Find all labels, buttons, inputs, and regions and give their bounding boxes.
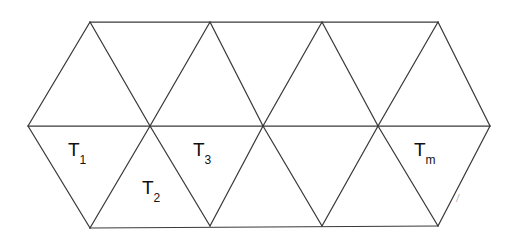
mesh-edge-up-left-1 xyxy=(150,22,210,126)
mesh-edge-up-right-1 xyxy=(90,22,150,126)
mesh-edge-bottom-horizontal xyxy=(90,226,438,228)
triangle-label-tm: Tm xyxy=(414,140,436,163)
triangulation-diagram: T1 T2 T3 Tm / xyxy=(0,0,513,236)
label-base: T xyxy=(68,139,80,160)
mesh-edge-down-right-2 xyxy=(210,126,263,226)
stray-pen-mark: / xyxy=(456,190,460,206)
label-subscript: 1 xyxy=(80,153,87,167)
label-base: T xyxy=(142,177,154,198)
label-subscript: 2 xyxy=(154,191,161,205)
mesh-edge-up-right-3 xyxy=(322,22,378,126)
label-subscript: 3 xyxy=(205,153,212,167)
mesh-edge-up-right-2 xyxy=(210,22,263,126)
mesh-edge-down-right-1 xyxy=(90,126,150,228)
mesh-edge-up-left-3 xyxy=(378,22,438,126)
triangulation-canvas xyxy=(0,0,513,236)
label-base: T xyxy=(193,139,205,160)
label-subscript: m xyxy=(426,153,436,167)
mesh-edge-right-lower-slant xyxy=(438,126,490,226)
mesh-edge-down-right-3 xyxy=(322,126,378,226)
triangle-label-t3: T3 xyxy=(193,140,211,163)
triangle-label-t1: T1 xyxy=(68,140,86,163)
label-base: T xyxy=(414,139,426,160)
mesh-edge-left-upper-slant xyxy=(28,22,90,126)
mesh-edge-group xyxy=(28,22,490,228)
mesh-edge-right-upper-slant xyxy=(438,22,490,126)
mesh-edge-down-left-2 xyxy=(263,126,322,226)
mesh-edge-up-left-2 xyxy=(263,22,322,126)
triangle-label-t2: T2 xyxy=(142,178,160,201)
